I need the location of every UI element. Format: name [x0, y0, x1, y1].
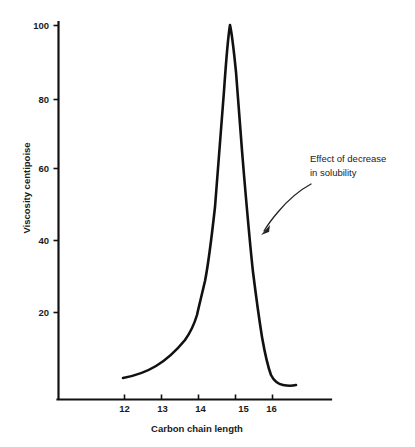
y-tick-label-20: 20 — [38, 307, 49, 318]
x-tick-label-14: 14 — [195, 403, 206, 414]
y-tick-label-100: 100 — [33, 20, 49, 31]
x-tick-label-15: 15 — [238, 403, 249, 414]
x-tick-label-13: 13 — [157, 403, 168, 414]
y-tick-label-40: 40 — [38, 235, 49, 246]
y-axis-title: Viscosity centipoise — [21, 142, 32, 233]
y-tick-label-80: 80 — [38, 94, 49, 105]
viscosity-curve — [123, 25, 296, 386]
y-tick-label-60: 60 — [38, 163, 49, 174]
annotation-arrow-line — [264, 184, 311, 231]
x-tick-label-16: 16 — [266, 403, 277, 414]
x-axis-title: Carbon chain length — [151, 423, 243, 434]
chart-page: 100 80 60 40 20 12 13 14 15 16 Carbon ch… — [0, 0, 415, 447]
annotation-line-2: in solubility — [310, 167, 357, 178]
x-tick-label-12: 12 — [119, 403, 130, 414]
viscosity-line-chart: 100 80 60 40 20 12 13 14 15 16 Carbon ch… — [0, 0, 415, 447]
annotation-line-1: Effect of decrease — [310, 153, 386, 164]
